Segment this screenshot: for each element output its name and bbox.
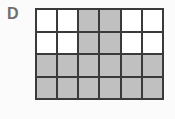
grid-cell-r3-c4	[100, 55, 119, 76]
grid-cell-r1-c4	[100, 10, 119, 31]
grid-cell-r1-c2	[58, 10, 77, 31]
grid-cell-r3-c1	[37, 55, 56, 76]
grid-cell-r4-c6	[143, 78, 162, 99]
grid	[35, 8, 164, 100]
grid-cell-r1-c1	[37, 10, 56, 31]
grid-cell-r1-c6	[143, 10, 162, 31]
grid-cell-r3-c3	[79, 55, 98, 76]
grid-cell-r4-c2	[58, 78, 77, 99]
grid-cell-r1-c5	[122, 10, 141, 31]
figure-label: D	[7, 5, 19, 23]
grid-cell-r2-c2	[58, 33, 77, 54]
grid-cell-r4-c3	[79, 78, 98, 99]
grid-cell-r2-c5	[122, 33, 141, 54]
grid-cell-r2-c3	[79, 33, 98, 54]
grid-cell-r2-c4	[100, 33, 119, 54]
grid-cell-r3-c5	[122, 55, 141, 76]
grid-cell-r4-c5	[122, 78, 141, 99]
grid-cell-r3-c2	[58, 55, 77, 76]
grid-cell-r2-c6	[143, 33, 162, 54]
grid-cell-r4-c4	[100, 78, 119, 99]
grid-cell-r1-c3	[79, 10, 98, 31]
grid-cell-r4-c1	[37, 78, 56, 99]
shaded-grid-figure: D	[0, 0, 175, 119]
grid-cell-r3-c6	[143, 55, 162, 76]
grid-cell-r2-c1	[37, 33, 56, 54]
